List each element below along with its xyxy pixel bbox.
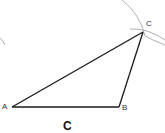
construction-arc-large: [122, 0, 165, 45]
construction-arc-small: [130, 29, 165, 40]
diagram-caption: C: [63, 120, 72, 132]
construction-arc-left: [0, 38, 5, 45]
vertex-label-b: B: [122, 104, 127, 112]
side-ac: [12, 32, 143, 107]
triangle-diagram: [0, 0, 165, 133]
vertex-label-c: C: [146, 20, 152, 28]
vertex-label-a: A: [2, 103, 7, 111]
